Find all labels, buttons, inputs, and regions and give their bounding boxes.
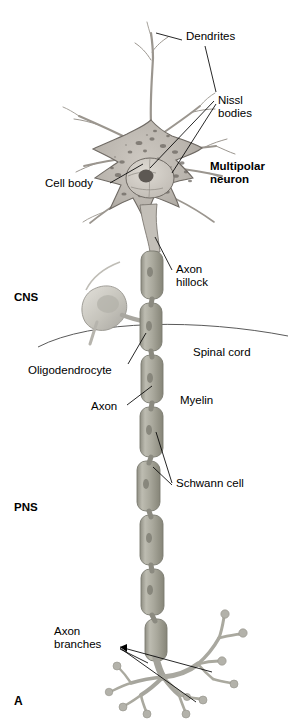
synaptic-terminal-knobs [105,610,247,718]
label-schwann-cell: Schwann cell [176,477,244,490]
label-cns: CNS [14,291,38,304]
neuron-figure: Dendrites Nissl bodies Cell body Multipo… [0,0,291,722]
nucleolus [139,170,154,183]
label-axon: Axon [91,400,117,413]
label-multipolar-neuron: Multipolar neuron [210,160,265,185]
label-nissl-bodies: Nissl bodies [218,94,252,119]
label-cell-body: Cell body [45,177,93,190]
axon-hillock-shape [140,204,160,252]
oligodendrocyte-shape [82,286,143,344]
label-pns: PNS [14,501,38,514]
panel-label: A [14,694,23,708]
label-axon-branches: Axon branches [54,625,101,650]
nucleus [126,158,174,198]
label-myelin: Myelin [180,394,213,407]
label-spinal-cord: Spinal cord [193,346,251,359]
label-dendrites: Dendrites [186,30,235,43]
spinal-cord-boundary [38,324,288,347]
label-axon-hillock: Axon hillock [176,263,208,288]
label-oligodendrocyte: Oligodendrocyte [28,364,112,377]
